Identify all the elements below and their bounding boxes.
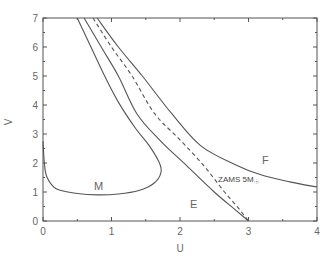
zams-annotation: ZAMS 5M☉	[218, 175, 259, 185]
x-tick-label: 4	[314, 226, 320, 237]
x-tick-label: 2	[177, 226, 183, 237]
y-tick-label: 0	[32, 216, 38, 227]
curve-zams-5m-	[93, 18, 248, 221]
y-axis-label: V	[3, 118, 14, 125]
y-tick-label: 7	[32, 13, 38, 24]
y-tick-label: 6	[32, 42, 38, 53]
curve-m	[43, 18, 161, 195]
x-axis-label: U	[176, 243, 183, 254]
x-tick-label: 1	[109, 226, 115, 237]
x-tick-label: 0	[40, 226, 46, 237]
label-f: F	[262, 154, 269, 166]
label-e: E	[190, 198, 197, 210]
y-tick-label: 4	[32, 100, 38, 111]
plot-area: 0123401234567	[32, 13, 320, 238]
label-m: M	[94, 180, 103, 192]
axes-frame	[43, 18, 317, 221]
chart: 0123401234567 U V M E F ZAMS 5M☉	[0, 0, 334, 259]
curve-f	[97, 18, 317, 187]
y-tick-label: 1	[32, 187, 38, 198]
y-tick-label: 5	[32, 71, 38, 82]
x-tick-label: 3	[246, 226, 252, 237]
y-tick-label: 3	[32, 129, 38, 140]
y-tick-label: 2	[32, 158, 38, 169]
